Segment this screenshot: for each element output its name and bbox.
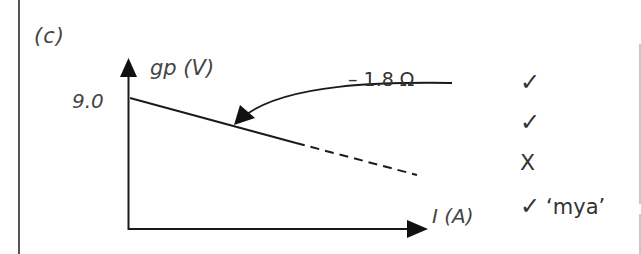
mark-tick-1: ✓ bbox=[520, 68, 540, 96]
y-axis-label: gp (V) bbox=[150, 56, 214, 80]
y-axis-arrowhead-icon bbox=[120, 58, 137, 77]
annotation-arrowhead-icon bbox=[234, 105, 255, 125]
mark-cross-3: X bbox=[520, 150, 535, 175]
cross-icon: X bbox=[520, 150, 535, 175]
mark-tick-4: ✓‘mya’ bbox=[520, 192, 605, 220]
tick-icon: ✓ bbox=[520, 192, 540, 220]
graph-line-dashed bbox=[296, 143, 417, 175]
x-axis-label: I (A) bbox=[432, 204, 474, 228]
x-axis-arrowhead-icon bbox=[407, 220, 428, 238]
gradient-annotation: – 1.8 Ω bbox=[348, 68, 414, 90]
mark-tick-2: ✓ bbox=[520, 108, 540, 136]
tick-icon: ✓ bbox=[520, 108, 540, 136]
graph-line-solid bbox=[130, 98, 296, 143]
tick-icon: ✓ bbox=[520, 68, 540, 96]
y-intercept-label: 9.0 bbox=[72, 89, 104, 113]
examiner-note: ‘mya’ bbox=[546, 195, 605, 219]
